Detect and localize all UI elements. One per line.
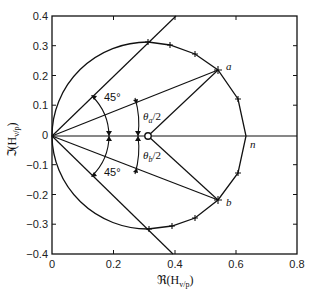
angle-label-upper: 45° bbox=[104, 91, 121, 103]
theta-b-label: θb/2 bbox=[143, 149, 161, 164]
line-center-to-b bbox=[148, 136, 218, 200]
line-center-to-a bbox=[148, 70, 218, 136]
x-tick-label: 0.8 bbox=[289, 258, 304, 270]
chart: 0 0.2 0.4 0.6 0.8 0.4 0.3 0.2 0.1 0 −0.1… bbox=[0, 0, 314, 293]
x-tick-label: 0.4 bbox=[167, 258, 182, 270]
y-tick-label: −0.4 bbox=[26, 248, 48, 260]
y-tick-label: 0.4 bbox=[33, 10, 48, 22]
angle-label-lower: 45° bbox=[104, 166, 121, 178]
point-b-label: b bbox=[226, 196, 232, 208]
y-tick-label: 0 bbox=[42, 129, 48, 141]
y-tick-label: 0.1 bbox=[33, 99, 48, 111]
y-tick-label: 0.2 bbox=[33, 70, 48, 82]
x-tick-label: 0 bbox=[49, 258, 55, 270]
x-axis-label: ℜ(Hv/p) bbox=[157, 273, 194, 289]
line-origin-to-a bbox=[52, 70, 218, 136]
line-origin-to-b bbox=[52, 136, 218, 200]
theta-a-label: θa/2 bbox=[143, 110, 161, 125]
y-tick-label: −0.1 bbox=[26, 159, 48, 171]
point-n-label: n bbox=[250, 138, 256, 150]
x-ticks bbox=[114, 16, 237, 254]
y-ticks bbox=[52, 46, 297, 225]
x-tick-label: 0.6 bbox=[228, 258, 243, 270]
x-tick-label: 0.2 bbox=[106, 258, 121, 270]
y-tick-label: −0.2 bbox=[26, 189, 48, 201]
plot-frame bbox=[52, 16, 297, 254]
y-axis-label: ℑ(Hv/p) bbox=[5, 123, 21, 158]
y-tick-label: −0.3 bbox=[26, 218, 48, 230]
center-marker bbox=[145, 133, 151, 139]
x-tick-labels: 0 0.2 0.4 0.6 0.8 bbox=[49, 258, 305, 270]
y-tick-labels: 0.4 0.3 0.2 0.1 0 −0.1 −0.2 −0.3 −0.4 bbox=[26, 10, 48, 260]
y-tick-label: 0.3 bbox=[33, 40, 48, 52]
point-a-label: a bbox=[226, 60, 232, 72]
